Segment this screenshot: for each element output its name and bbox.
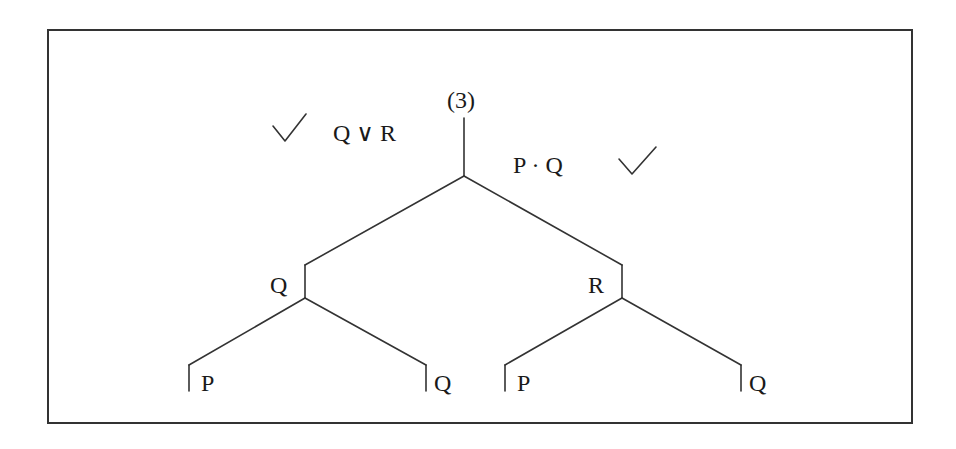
branch-line-right	[464, 176, 622, 265]
branch-line-rr	[622, 298, 741, 365]
premise-left-formula: Q ∨ R	[333, 121, 396, 145]
branch-node-q: Q	[270, 273, 287, 297]
premise-right-formula: P · Q	[513, 153, 563, 177]
leaf-node-rr: Q	[749, 371, 766, 395]
check-icon	[619, 147, 656, 174]
leaf-node-lr: Q	[434, 371, 451, 395]
truth-tree-lines	[0, 0, 956, 449]
leaf-node-ll: P	[201, 371, 214, 395]
branch-line-left	[305, 176, 464, 265]
check-icon	[273, 114, 306, 141]
branch-line-lr	[305, 298, 426, 365]
tree-title: (3)	[447, 88, 475, 112]
branch-node-r: R	[588, 273, 604, 297]
leaf-node-rl: P	[517, 371, 530, 395]
branch-line-rl	[505, 298, 622, 365]
branch-line-ll	[189, 298, 305, 365]
